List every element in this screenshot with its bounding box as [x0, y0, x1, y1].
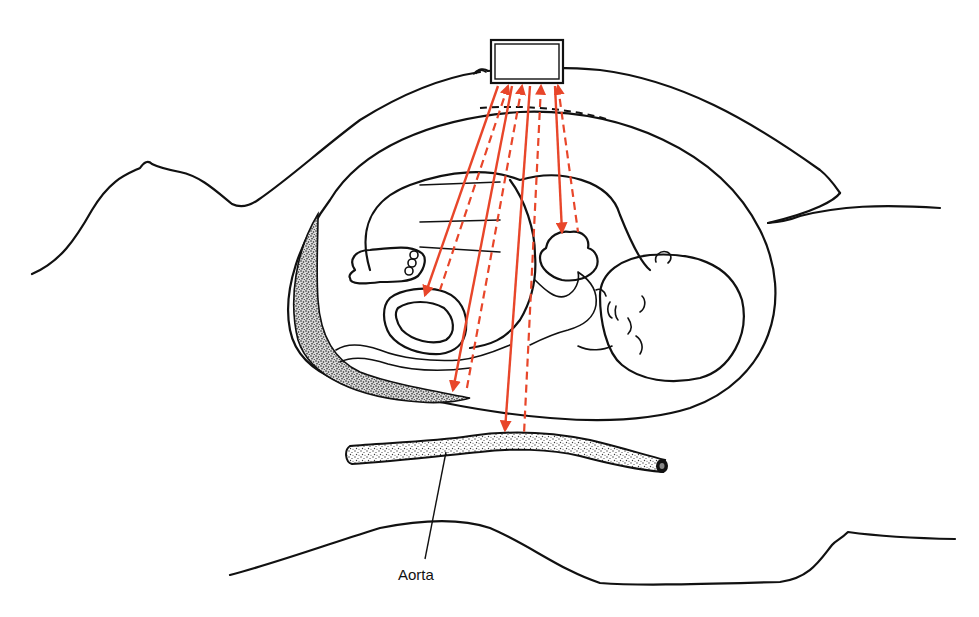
fetal-heart	[540, 232, 598, 281]
fetal-toe	[408, 259, 416, 267]
ultrasound-diagram	[0, 0, 979, 617]
fetal-nose	[608, 302, 618, 320]
fetal-head	[600, 255, 744, 382]
fetal-arm	[530, 272, 596, 345]
fetal-chin	[636, 336, 642, 354]
fetal-eye	[640, 296, 645, 312]
ultrasound-transducer	[491, 40, 563, 83]
aorta	[346, 433, 668, 473]
beam-transmit-cord	[425, 86, 498, 295]
fetal-ear	[656, 252, 671, 263]
doppler-beams	[425, 86, 578, 434]
beam-echo-placenta	[466, 86, 522, 393]
aorta-leader-line	[425, 452, 446, 559]
fetal-toe	[405, 267, 413, 275]
maternal-hip-outline	[768, 206, 940, 223]
umbilical-cord-inner	[396, 302, 453, 342]
maternal-back-outline	[230, 521, 955, 584]
aorta-label: Aorta	[398, 566, 434, 583]
fetal-toe	[410, 251, 418, 259]
fetal-mouth	[628, 318, 631, 334]
maternal-abdomen-lower-right	[768, 193, 840, 223]
fetal-foot	[349, 248, 424, 284]
beam-transmit-heart	[555, 86, 562, 232]
maternal-chest-outline	[32, 72, 480, 274]
fetus-back	[366, 172, 650, 270]
